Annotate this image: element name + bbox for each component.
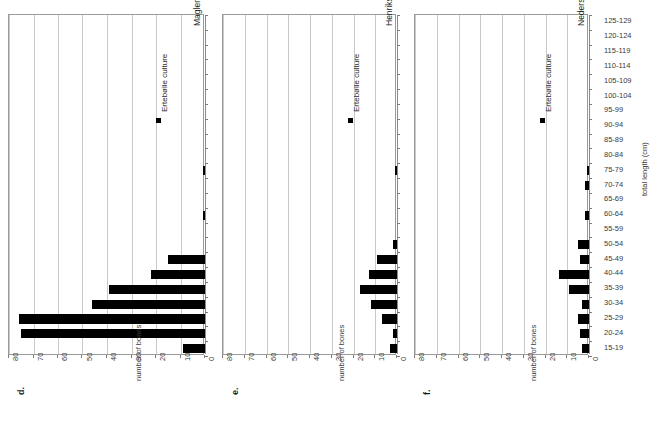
category-label: 85-89 [604,135,623,144]
category-label: 95-99 [604,105,623,114]
category-label: 105-109 [604,76,632,85]
category-label: 100-104 [604,91,632,100]
category-label: 30-34 [604,298,623,307]
figure-root: 01020304050607080number of bonesd.Maglem… [0,0,659,421]
category-label: 70-74 [604,180,623,189]
category-label: 75-79 [604,165,623,174]
category-label: 125-129 [604,16,632,25]
category-label: 20-24 [604,328,623,337]
category-label: 50-54 [604,239,623,248]
category-label: 45-49 [604,254,623,263]
category-label: 35-39 [604,283,623,292]
category-label: 80-84 [604,150,623,159]
category-label: 120-124 [604,31,632,40]
category-label: 65-69 [604,194,623,203]
category-label: 15-19 [604,343,623,352]
category-label: 110-114 [604,61,630,70]
category-axis: 15-1920-2425-2930-3435-3940-4445-4950-54… [0,0,659,421]
category-axis-title: total length (cm) [640,142,649,196]
category-label: 90-94 [604,120,623,129]
category-label: 25-29 [604,313,623,322]
category-label: 60-64 [604,209,623,218]
category-label: 40-44 [604,268,623,277]
category-label: 55-59 [604,224,623,233]
category-label: 115-119 [604,46,630,55]
